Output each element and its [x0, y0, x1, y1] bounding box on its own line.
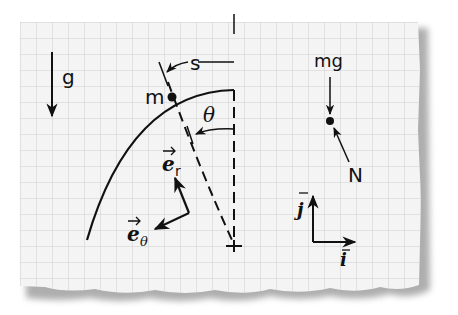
- svg-text:e: e: [127, 222, 140, 246]
- angle-label: θ: [203, 103, 215, 127]
- mass-label: m: [145, 85, 164, 109]
- arc-length-label: s: [190, 51, 200, 75]
- mass-dot: [168, 93, 177, 102]
- svg-text:r: r: [175, 163, 181, 179]
- svg-text:i: i: [340, 249, 347, 270]
- free-body-dot: [326, 117, 334, 125]
- svg-text:θ: θ: [140, 234, 148, 249]
- weight-label: mg: [314, 50, 343, 71]
- normal-force-label: N: [348, 163, 363, 187]
- svg-text:e: e: [162, 152, 175, 176]
- gravity-label: g: [62, 65, 75, 89]
- diagram-canvas: g s m θ e r e θ mg: [0, 0, 458, 315]
